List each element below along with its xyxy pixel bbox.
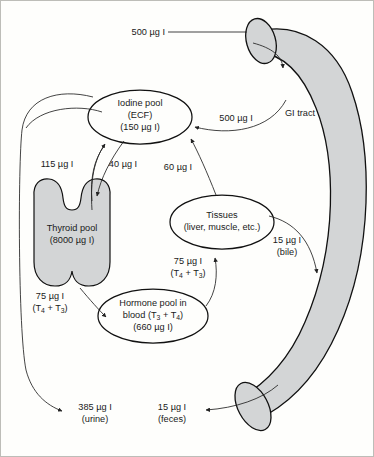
thyroid-secretion-arrow — [80, 288, 106, 317]
tissue-uptake-label: 75 µg I — [174, 256, 202, 266]
feces-label: 15 µg I — [158, 402, 186, 412]
iodine-pool-node: Iodine pool (ECF) (150 µg I) — [88, 90, 192, 144]
hormone-pool-node: Hormone pool in blood (T3 + T4) (660 µg … — [98, 289, 208, 343]
tissues-node: Tissues (liver, muscle, etc.) — [170, 195, 274, 249]
urine-route-label: (urine) — [82, 414, 109, 424]
tissue-uptake-arrow — [206, 258, 216, 306]
hormone-pool-label-line2: blood (T3 + T4) — [123, 310, 183, 321]
tissue-release-label: 60 µg I — [164, 162, 192, 172]
intake-label: 500 µg I — [132, 27, 165, 37]
thyroid-secretion-label: 75 µg I — [36, 291, 64, 301]
iodine-metabolism-diagram: GI tract Thyroid pool (8000 µg I) Iodine… — [0, 0, 374, 457]
hormone-pool-label-line1: Hormone pool in — [119, 298, 186, 308]
tissues-label-line2: (liver, muscle, etc.) — [184, 222, 261, 232]
gi-tract-label: GI tract — [285, 108, 316, 118]
diagram-page: GI tract Thyroid pool (8000 µg I) Iodine… — [0, 0, 374, 457]
iodine-pool-label-line1: Iodine pool — [118, 98, 163, 108]
tissue-release-arrow — [191, 139, 216, 195]
iodine-pool-label-line2: (ECF) — [128, 110, 153, 120]
thyroid-secretion-hormones: (T4 + T3) — [32, 303, 67, 314]
thyroid-pool-label-line1: Thyroid pool — [47, 223, 98, 233]
thyroid-uptake-label: 115 µg I — [41, 159, 74, 169]
thyroid-pool-label-line2: (8000 µg I) — [50, 235, 95, 245]
iodine-pool-label-line3: (150 µg I) — [120, 122, 160, 132]
feces-route-label: (feces) — [158, 414, 186, 424]
gi-tract-mouth-opening — [241, 15, 282, 67]
tissues-label-line1: Tissues — [206, 210, 238, 220]
tissue-uptake-hormones: (T4 + T3) — [170, 268, 205, 279]
gi-absorption-label: 500 µg I — [219, 113, 252, 123]
hormone-pool-label-line3: (660 µg I) — [133, 322, 173, 332]
thyroid-leak-label: 40 µg I — [109, 159, 137, 169]
bile-route-label: (bile) — [277, 247, 297, 257]
bile-label: 15 µg I — [273, 235, 301, 245]
urine-label: 385 µg I — [78, 402, 111, 412]
thyroid-gland-organ: Thyroid pool (8000 µg I) — [34, 179, 110, 286]
